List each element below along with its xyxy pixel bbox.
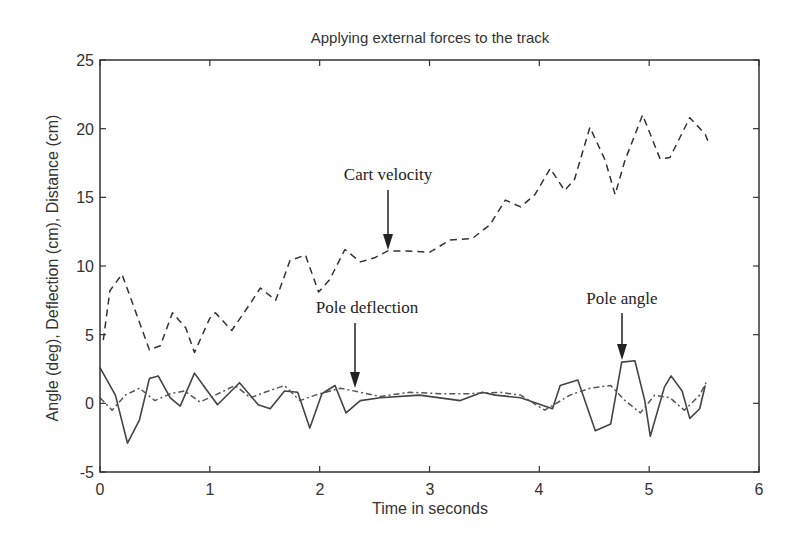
annotation-label: Pole angle (586, 289, 657, 308)
x-tick-label: 0 (96, 481, 105, 498)
x-tick-label: 5 (645, 481, 654, 498)
line-chart: Applying external forces to the track 0 … (0, 0, 800, 545)
y-axis-label: Angle (deg), Deflection (cm), Distance (… (44, 115, 61, 422)
y-tick-label: 15 (76, 189, 94, 206)
x-tick-label: 4 (535, 481, 544, 498)
chart-title: Applying external forces to the track (311, 29, 550, 46)
annotation-cart-velocity: Cart velocity (344, 165, 433, 250)
x-tick-label: 1 (206, 481, 215, 498)
arrow-down-icon (350, 372, 360, 388)
y-tick-label: 20 (76, 121, 94, 138)
y-tick-label: 10 (76, 258, 94, 275)
x-tick-label: 3 (426, 481, 435, 498)
axis-ticks (100, 60, 759, 472)
x-tick-labels: 0 1 2 3 4 5 6 (96, 481, 764, 498)
annotation-label: Cart velocity (344, 165, 433, 184)
annotation-pole-angle: Pole angle (586, 289, 657, 360)
plot-frame (100, 60, 759, 472)
y-tick-label: 0 (85, 395, 94, 412)
x-tick-label: 6 (755, 481, 764, 498)
y-tick-label: -5 (80, 464, 94, 481)
arrow-down-icon (617, 344, 627, 360)
series-pole-angle (100, 361, 705, 443)
y-tick-label: 5 (85, 327, 94, 344)
y-tick-labels: -5 0 5 10 15 20 25 (76, 52, 94, 481)
y-tick-label: 25 (76, 52, 94, 69)
annotation-label: Pole deflection (316, 298, 419, 317)
x-axis-label: Time in seconds (372, 500, 488, 517)
annotation-pole-deflection: Pole deflection (316, 298, 419, 388)
arrow-down-icon (383, 234, 393, 250)
x-tick-label: 2 (316, 481, 325, 498)
